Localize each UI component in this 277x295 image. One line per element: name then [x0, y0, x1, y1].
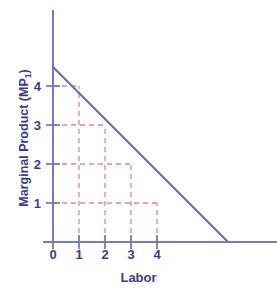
x-tick-label-3: 3 [121, 247, 141, 262]
y-axis-label-subscript: 1 [23, 73, 33, 78]
data-series-marginal-product [53, 67, 228, 242]
x-tick-label-1: 1 [69, 247, 89, 262]
y-tick-label-2: 2 [27, 157, 41, 172]
guide-lines [53, 86, 157, 242]
x-axis-label: Labor [0, 270, 277, 285]
x-tick-label-0: 0 [43, 247, 63, 262]
y-axis-label-text: Marginal Product (MP [17, 78, 31, 206]
axes [43, 10, 277, 243]
y-tick-label-4: 4 [27, 79, 41, 94]
axis-ticks [46, 86, 157, 249]
marginal-product-line [53, 67, 228, 242]
x-tick-label-4: 4 [147, 247, 167, 262]
y-tick-label-1: 1 [27, 196, 41, 211]
y-tick-label-3: 3 [27, 118, 41, 133]
chart-container: Marginal Product (MP1) Labor 0 1 2 3 4 4… [0, 0, 277, 295]
x-tick-label-2: 2 [95, 247, 115, 262]
